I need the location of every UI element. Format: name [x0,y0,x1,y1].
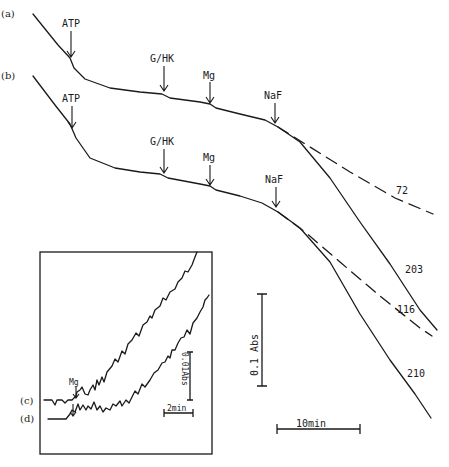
end-label-72: 72 [396,185,408,196]
down-arrow-icon [206,165,214,185]
trace-a-label: (a) [1,8,15,19]
down-arrow-icon [160,149,168,173]
naf-label: NaF [264,90,282,101]
trace-a-extrapolation [278,127,433,214]
annotation-b-ghk: G/HK [150,136,174,173]
atp-label: ATP [62,18,80,29]
vertical-scale-bar: 0.1 Abs [249,294,267,386]
down-arrow-icon [73,387,79,398]
annotation-a-naf: NaF [264,90,282,123]
trace-c-line [44,252,197,405]
atp-label: ATP [62,93,80,104]
end-label-203: 203 [405,264,423,275]
naf-label: NaF [265,174,283,185]
down-arrow-icon [272,187,280,207]
vertical-scale-label: 0.1 Abs [249,334,260,376]
down-arrow-icon [271,103,279,123]
end-label-210: 210 [407,368,425,379]
annotation-a-atp: ATP [62,18,80,57]
down-arrow-icon [67,31,75,57]
down-arrow-icon [206,82,214,103]
annotation-a-mg: Mg [203,70,215,103]
down-arrow-icon [160,66,168,91]
trace-c-label: (c) [20,395,34,406]
inset-horizontal-scale-label: 2min [167,404,186,413]
annotation-b-mg: Mg [203,152,215,185]
ghk-label: G/HK [150,53,174,64]
figure: (a) (b) ATP G/HK Mg NaF ATP G/HK Mg [0,0,449,467]
inset-vertical-scale-label: 0.01Abs [180,352,189,386]
trace-a-line [33,14,437,330]
down-arrow-icon [68,106,76,128]
inset-mg-label: Mg [69,378,79,387]
end-label-116: 116 [397,304,415,315]
annotation-b-naf: NaF [265,174,283,207]
trace-b-line [33,76,431,418]
annotation-b-atp: ATP [62,93,80,128]
inset-panel: (c) (d) Mg 0.01Abs 2min [20,252,212,454]
trace-d-label: (d) [20,413,34,424]
trace-b-label: (b) [1,70,15,81]
ghk-label: G/HK [150,136,174,147]
horizontal-scale-bar: 10min [277,418,360,434]
mg-label: Mg [203,152,215,163]
annotation-a-ghk: G/HK [150,53,174,91]
main-panel: (a) (b) ATP G/HK Mg NaF ATP G/HK Mg [1,8,437,418]
horizontal-scale-label: 10min [296,418,326,429]
mg-label: Mg [203,70,215,81]
